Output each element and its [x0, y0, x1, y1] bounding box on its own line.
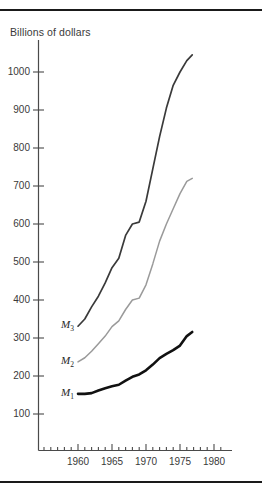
series-group	[78, 55, 192, 394]
y-tick-label: 500	[0, 256, 30, 267]
series-line-m2	[78, 178, 192, 362]
x-tick-label: 1960	[61, 456, 95, 467]
series-label-m1: M1	[61, 386, 74, 401]
x-tick-label: 1965	[95, 456, 129, 467]
x-tick-label: 1970	[129, 456, 163, 467]
plot-area	[0, 0, 262, 493]
series-line-m3	[78, 55, 192, 326]
x-tick-label: 1980	[197, 456, 231, 467]
chart-figure: Billions of dollars 10020030040050060070…	[0, 0, 262, 493]
x-tick-label: 1975	[163, 456, 197, 467]
y-tick-label: 800	[0, 142, 30, 153]
y-tick-label: 300	[0, 332, 30, 343]
y-tick-label: 400	[0, 294, 30, 305]
y-tick-label: 100	[0, 408, 30, 419]
y-tick-label: 600	[0, 218, 30, 229]
series-line-m1	[78, 332, 192, 394]
y-tick-label: 700	[0, 180, 30, 191]
y-tick-label: 900	[0, 104, 30, 115]
y-tick-label: 1000	[0, 66, 30, 77]
series-label-m3: M3	[61, 318, 74, 333]
y-tick-label: 200	[0, 370, 30, 381]
series-label-m2: M2	[61, 354, 74, 369]
